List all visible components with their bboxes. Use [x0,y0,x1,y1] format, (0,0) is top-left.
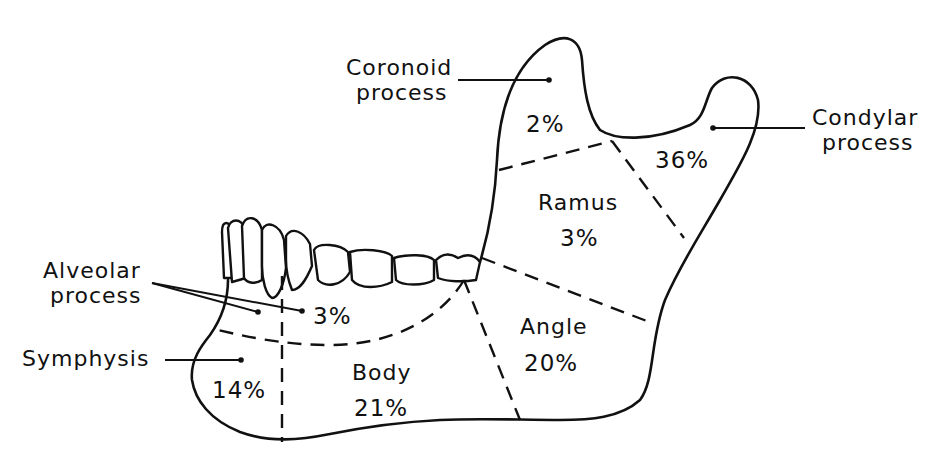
boundary-body-angle [464,280,520,420]
pct-alveolar: 3% [313,303,352,329]
pct-body: 21% [354,395,408,421]
pct-angle: 20% [524,350,578,376]
teeth [222,218,480,298]
label-alveolar-line1: Alveolar [43,258,141,283]
name-ramus: Ramus [538,190,618,215]
label-symphysis: Symphysis [22,346,149,371]
boundary-coronoid-ramus [499,141,612,170]
pct-condylar: 36% [655,147,709,173]
tooth-molar-3 [436,255,480,282]
label-coronoid-line2: process [356,80,448,105]
tooth-premolar-1 [286,231,312,290]
tooth-molar-2 [394,255,434,284]
label-coronoid-line1: Coronoid [346,55,452,80]
label-alveolar-line2: process [50,283,142,308]
name-body: Body [352,360,412,385]
mandible-fracture-diagram: Coronoid process Condylar process Alveol… [0,0,950,471]
name-angle: Angle [520,314,588,339]
label-condylar-line2: process [822,130,914,155]
pct-coronoid: 2% [526,111,565,137]
pct-ramus: 3% [560,225,599,251]
label-condylar-line1: Condylar [812,105,918,130]
tooth-molar-1 [350,250,392,287]
tooth-premolar-2 [314,245,350,285]
tooth-incisor-3 [242,218,262,283]
pct-symphysis: 14% [212,377,266,403]
